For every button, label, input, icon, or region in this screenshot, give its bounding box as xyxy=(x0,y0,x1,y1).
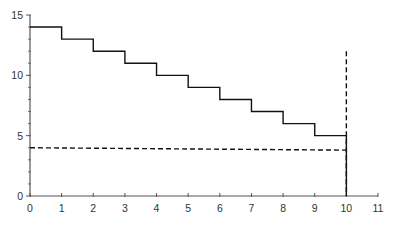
x-tick-label: 5 xyxy=(185,202,191,214)
series-step xyxy=(30,27,346,196)
x-tick-label: 4 xyxy=(154,202,160,214)
x-tick-label: 8 xyxy=(280,202,286,214)
series-group xyxy=(30,27,346,196)
x-tick-label: 11 xyxy=(373,202,384,214)
y-tick-label: 5 xyxy=(17,130,23,142)
x-tick-label: 1 xyxy=(59,202,65,214)
axes xyxy=(26,15,378,197)
x-tick-label: 9 xyxy=(312,202,318,214)
x-tick-label: 0 xyxy=(27,202,33,214)
x-tick-label: 7 xyxy=(249,202,255,214)
y-tick-label: 10 xyxy=(11,69,23,81)
x-tick-label: 10 xyxy=(341,202,353,214)
series-horizontal-dashed xyxy=(30,148,346,150)
x-tick-label: 6 xyxy=(217,202,223,214)
x-tick-label: 2 xyxy=(90,202,96,214)
y-tick-label: 15 xyxy=(11,9,23,21)
step-chart: 01234567891011051015 xyxy=(0,0,397,226)
y-tick-label: 0 xyxy=(17,190,23,202)
x-tick-label: 3 xyxy=(122,202,128,214)
